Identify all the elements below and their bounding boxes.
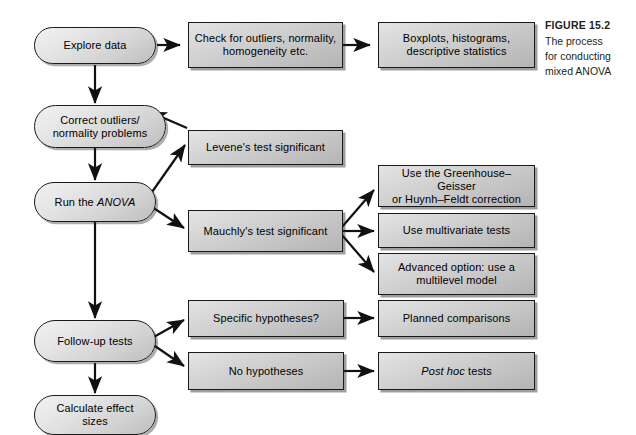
figure-flowchart: Explore data Check for outliers, normali… bbox=[0, 0, 636, 435]
node-check-outliers-label: Check for outliers, normality, homogenei… bbox=[190, 32, 342, 58]
node-multilevel-model-line2: multilevel model bbox=[416, 274, 496, 286]
node-post-hoc-suffix: tests bbox=[465, 365, 492, 377]
figure-caption-line-3: mixed ANOVA bbox=[545, 64, 633, 79]
node-calculate-effect-sizes-line1: Calculate effect bbox=[56, 402, 133, 414]
node-specific-hypotheses-label: Specific hypotheses? bbox=[208, 312, 324, 325]
figure-caption-title: FIGURE 15.2 bbox=[545, 18, 633, 33]
node-boxplots-line2: descriptive statistics bbox=[406, 45, 506, 57]
node-greenhouse-geisser[interactable]: Use the Greenhouse–Geisser or Huynh–Feld… bbox=[378, 165, 535, 207]
figure-caption-line-2: for conducting bbox=[545, 49, 633, 64]
node-follow-up-tests-label: Follow-up tests bbox=[52, 335, 137, 348]
node-boxplots-line1: Boxplots, histograms, bbox=[403, 32, 510, 44]
node-specific-hypotheses[interactable]: Specific hypotheses? bbox=[188, 300, 344, 337]
node-planned-comparisons-label: Planned comparisons bbox=[398, 312, 516, 325]
node-calculate-effect-sizes[interactable]: Calculate effect sizes bbox=[34, 395, 156, 435]
node-mauchlys-test[interactable]: Mauchly's test significant bbox=[188, 210, 343, 252]
node-explore-data-label: Explore data bbox=[59, 39, 132, 52]
edge-followup-to-nohyp bbox=[152, 344, 184, 366]
node-boxplots-label: Boxplots, histograms, descriptive statis… bbox=[398, 32, 515, 58]
node-greenhouse-geisser-line2: or Huynh–Feldt correction bbox=[392, 193, 521, 205]
figure-caption-line-1: The process bbox=[545, 34, 633, 49]
node-greenhouse-geisser-line1: Use the Greenhouse–Geisser bbox=[402, 167, 512, 192]
node-follow-up-tests[interactable]: Follow-up tests bbox=[34, 320, 156, 362]
node-multivariate-tests[interactable]: Use multivariate tests bbox=[378, 213, 535, 248]
node-correct-outliers[interactable]: Correct outliers/ normality problems bbox=[34, 105, 166, 148]
edge-mauchly-to-greenhouse bbox=[342, 190, 374, 227]
node-post-hoc-italic: Post hoc bbox=[421, 365, 465, 377]
node-run-anova-italic: ANOVA bbox=[97, 196, 135, 208]
node-planned-comparisons[interactable]: Planned comparisons bbox=[378, 300, 535, 337]
node-post-hoc-tests-label: Post hoc tests bbox=[416, 365, 497, 378]
node-run-anova-label: Run the ANOVA bbox=[50, 196, 141, 209]
node-run-anova[interactable]: Run the ANOVA bbox=[34, 182, 156, 222]
node-correct-outliers-line1: Correct outliers/ bbox=[60, 114, 139, 126]
node-multivariate-tests-label: Use multivariate tests bbox=[398, 224, 515, 237]
node-check-outliers-line1: Check for outliers, normality, bbox=[195, 32, 337, 44]
node-calculate-effect-sizes-label: Calculate effect sizes bbox=[51, 402, 138, 428]
node-levenes-test[interactable]: Levene's test significant bbox=[188, 130, 343, 165]
node-levenes-test-label: Levene's test significant bbox=[201, 141, 330, 154]
node-correct-outliers-line2: normality problems bbox=[53, 127, 148, 139]
edge-mauchly-to-multilevel bbox=[342, 235, 374, 272]
edge-anova-to-mauchly bbox=[152, 207, 184, 228]
node-run-anova-prefix: Run the bbox=[55, 196, 97, 208]
node-multilevel-model[interactable]: Advanced option: use a multilevel model bbox=[378, 253, 535, 295]
edge-anova-to-levene bbox=[152, 145, 185, 192]
node-check-outliers-line2: homogeneity etc. bbox=[223, 45, 308, 57]
node-correct-outliers-label: Correct outliers/ normality problems bbox=[48, 114, 153, 140]
edge-followup-to-specific bbox=[152, 320, 184, 338]
node-post-hoc-tests[interactable]: Post hoc tests bbox=[378, 352, 535, 390]
node-no-hypotheses[interactable]: No hypotheses bbox=[188, 352, 344, 390]
node-greenhouse-geisser-label: Use the Greenhouse–Geisser or Huynh–Feld… bbox=[379, 167, 534, 206]
node-boxplots[interactable]: Boxplots, histograms, descriptive statis… bbox=[378, 22, 535, 68]
node-no-hypotheses-label: No hypotheses bbox=[224, 365, 309, 378]
node-multilevel-model-label: Advanced option: use a multilevel model bbox=[393, 261, 520, 287]
node-mauchlys-test-label: Mauchly's test significant bbox=[199, 225, 333, 238]
node-explore-data[interactable]: Explore data bbox=[34, 27, 156, 64]
node-check-outliers[interactable]: Check for outliers, normality, homogenei… bbox=[188, 22, 343, 68]
node-calculate-effect-sizes-line2: sizes bbox=[82, 415, 108, 427]
figure-caption: FIGURE 15.2 The process for conducting m… bbox=[545, 18, 633, 79]
node-multilevel-model-line1: Advanced option: use a bbox=[398, 261, 515, 273]
